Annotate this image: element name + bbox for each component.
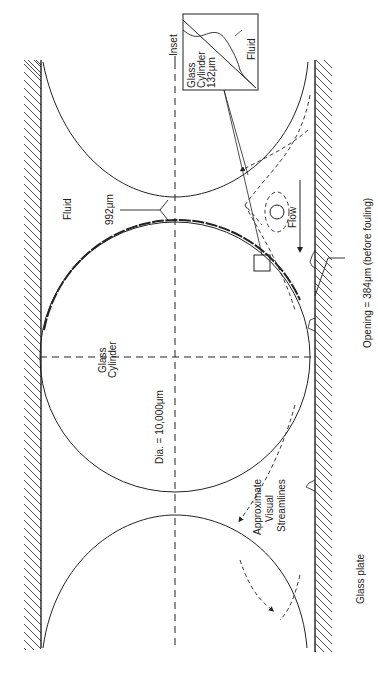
glass-cylinder-label-2: Cylinder <box>107 341 118 378</box>
inset-glass-label-3: 132μm <box>206 57 217 88</box>
glass-plate-label: Glass plate <box>355 554 366 604</box>
flow-diagram <box>0 0 378 674</box>
diameter-label: Dia. = 10,000μm <box>154 390 165 464</box>
fluid-label: Fluid <box>62 198 73 220</box>
vortex-icon <box>270 205 284 219</box>
flow-label: Flow <box>287 207 298 228</box>
opening-label: Opening = 384μm (before fouling) <box>362 198 373 348</box>
streamlines-label-1: Approximate <box>252 479 263 535</box>
streamlines-label-3: Streamlines <box>276 479 287 532</box>
gap-label: 992μm <box>104 194 115 225</box>
inset-label: Inset <box>168 34 179 56</box>
gap-indicator <box>120 200 168 220</box>
streamlines-label-2: Visual <box>264 495 275 522</box>
inset-fluid-label: Fluid <box>246 38 257 60</box>
